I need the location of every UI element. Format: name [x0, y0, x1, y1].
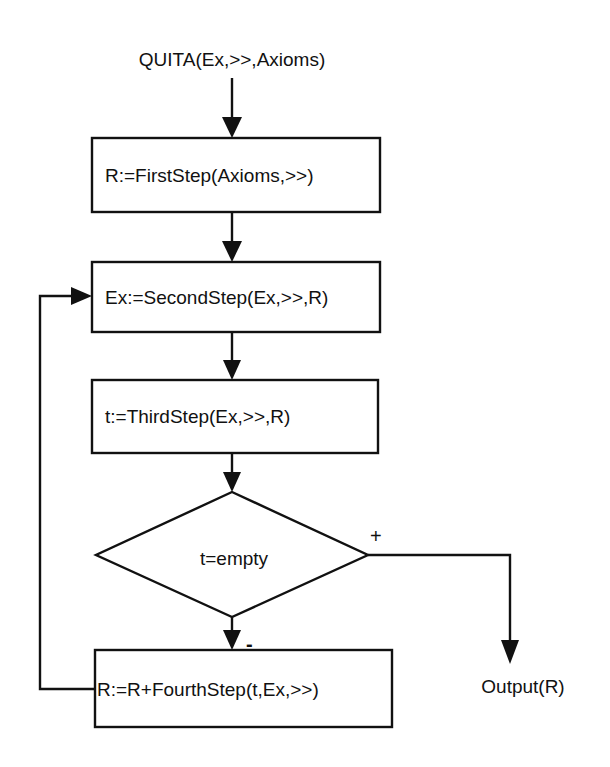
flowchart-canvas — [0, 0, 610, 767]
edge-step4-to-step2-loop — [40, 296, 95, 689]
step3-label: t:=ThirdStep(Ex,>>,R) — [105, 407, 290, 426]
arrowhead-icon — [222, 241, 242, 262]
decision-label: t=empty — [200, 549, 268, 568]
step4-label: R:=R+FourthStep(t,Ex,>>) — [97, 680, 319, 699]
arrowhead-icon — [222, 117, 242, 138]
step2-label: Ex:=SecondStep(Ex,>>,R) — [105, 288, 328, 307]
edge-decision-to-output — [368, 555, 510, 640]
no-branch-label: - — [246, 634, 253, 654]
arrowhead-icon — [223, 360, 241, 380]
arrowhead-icon — [501, 640, 519, 664]
arrowhead-icon — [223, 472, 241, 492]
yes-branch-label: + — [370, 526, 382, 546]
arrowhead-icon — [223, 630, 241, 650]
start-node-label: QUITA(Ex,>>,Axioms) — [139, 50, 326, 69]
output-node-label: Output(R) — [481, 677, 564, 696]
step1-label: R:=FirstStep(Axioms,>>) — [105, 166, 314, 185]
arrowhead-icon — [71, 287, 92, 305]
